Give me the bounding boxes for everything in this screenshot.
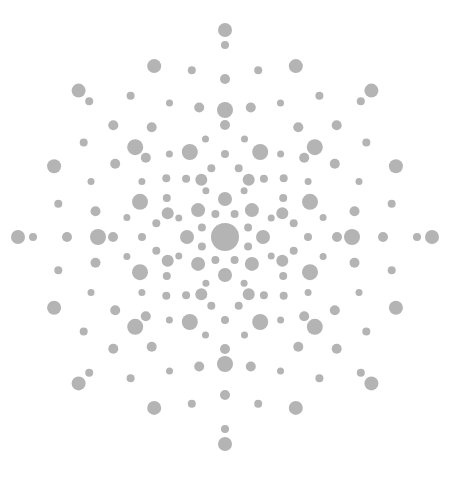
pattern-dot — [260, 175, 268, 183]
pattern-dot — [162, 174, 170, 182]
pattern-dot — [231, 256, 239, 264]
pattern-dot — [80, 327, 88, 335]
pattern-dot — [268, 253, 275, 260]
pattern-dot — [91, 258, 101, 268]
pattern-dot — [350, 206, 360, 216]
pattern-dot — [241, 187, 248, 194]
pattern-dot — [72, 84, 86, 98]
pattern-dot — [191, 203, 205, 217]
pattern-dot — [127, 319, 143, 335]
pattern-dot — [289, 401, 303, 415]
pattern-dot — [163, 194, 171, 202]
pattern-dot — [180, 230, 194, 244]
pattern-dot — [220, 344, 230, 354]
pattern-dot — [293, 342, 303, 352]
pattern-dot — [123, 214, 130, 221]
pattern-dot — [182, 291, 190, 299]
pattern-dot — [141, 311, 151, 321]
pattern-dot — [277, 317, 284, 324]
pattern-dot — [246, 103, 256, 113]
pattern-dot — [241, 135, 248, 142]
pattern-dot — [245, 203, 259, 217]
pattern-dot — [332, 120, 342, 130]
pattern-dot — [362, 327, 370, 335]
pattern-dot — [254, 400, 262, 408]
pattern-dot — [332, 344, 342, 354]
pattern-dot — [357, 97, 365, 105]
pattern-dot — [241, 332, 248, 339]
pattern-dot — [221, 41, 229, 49]
pattern-dot — [127, 374, 135, 382]
pattern-dot — [330, 159, 340, 169]
pattern-dot — [378, 232, 388, 242]
pattern-dot — [127, 92, 135, 100]
pattern-dot — [175, 253, 182, 260]
pattern-dot — [88, 178, 95, 185]
pattern-dot — [166, 317, 173, 324]
pattern-dot — [364, 84, 378, 98]
pattern-dot — [220, 390, 230, 400]
pattern-dot — [175, 214, 182, 221]
pattern-dot — [315, 92, 323, 100]
pattern-dot — [244, 223, 252, 231]
pattern-dot — [220, 120, 230, 130]
pattern-dot — [220, 74, 230, 84]
pattern-dot — [330, 305, 340, 315]
pattern-dot — [147, 401, 161, 415]
pattern-dot — [344, 229, 360, 245]
pattern-dot — [162, 292, 170, 300]
pattern-dot — [388, 200, 396, 208]
pattern-dot — [110, 159, 120, 169]
pattern-dot — [47, 301, 61, 315]
pattern-dot — [293, 122, 303, 132]
pattern-dot — [235, 164, 243, 172]
pattern-dot — [62, 232, 72, 242]
pattern-dot — [127, 139, 143, 155]
pattern-dot — [195, 174, 207, 186]
pattern-dot — [202, 280, 209, 287]
pattern-dot — [138, 289, 145, 296]
pattern-dot — [277, 150, 284, 157]
pattern-dot — [152, 247, 160, 255]
pattern-dot — [166, 100, 173, 107]
pattern-dot — [138, 178, 145, 185]
pattern-dot — [356, 178, 363, 185]
pattern-dot — [350, 258, 360, 268]
pattern-dot — [147, 122, 157, 132]
pattern-dot — [108, 120, 118, 130]
pattern-dot — [279, 272, 287, 280]
pattern-dot — [182, 175, 190, 183]
pattern-dot — [315, 374, 323, 382]
pattern-dot — [304, 233, 312, 241]
pattern-dot — [162, 255, 174, 267]
pattern-dot — [166, 368, 173, 375]
pattern-dot — [252, 144, 268, 160]
pattern-dot — [152, 219, 160, 227]
pattern-dot — [254, 66, 262, 74]
pattern-dot — [217, 102, 233, 118]
pattern-dot — [279, 194, 287, 202]
center-dot — [211, 223, 239, 251]
pattern-dot — [54, 266, 62, 274]
pattern-dot — [231, 210, 239, 218]
pattern-dot — [218, 23, 232, 37]
radial-dot-pattern — [0, 0, 450, 480]
pattern-dot — [218, 192, 232, 206]
pattern-dot — [260, 291, 268, 299]
pattern-dot — [299, 311, 309, 321]
pattern-dot — [320, 214, 327, 221]
pattern-dot — [256, 230, 270, 244]
pattern-dot — [217, 356, 233, 372]
pattern-dot — [241, 280, 248, 287]
pattern-dot — [195, 288, 207, 300]
pattern-dot — [202, 135, 209, 142]
pattern-dot — [110, 305, 120, 315]
pattern-dot — [11, 230, 25, 244]
pattern-dot — [252, 314, 268, 330]
pattern-dot — [425, 230, 439, 244]
pattern-dot — [302, 194, 318, 210]
pattern-dot — [280, 292, 288, 300]
pattern-dot — [320, 253, 327, 260]
pattern-dot — [290, 247, 298, 255]
pattern-dot — [245, 257, 259, 271]
